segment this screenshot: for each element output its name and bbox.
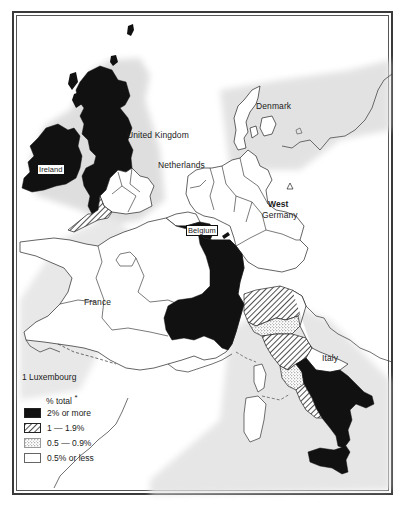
legend-item-2pct-or-more: 2% or more <box>24 407 91 419</box>
legend-title-text: % total <box>46 396 72 406</box>
label-france: France <box>84 297 111 307</box>
legend-item-1-to-1.9pct: 1 — 1.9% <box>24 422 84 434</box>
legend-title-asterisk: * <box>74 393 77 402</box>
swatch-white-icon <box>24 453 41 463</box>
label-west: West <box>268 199 289 209</box>
legend-item-0.5-to-0.9pct: 0.5 — 0.9% <box>24 437 91 449</box>
label-belgium: Belgium <box>186 225 218 236</box>
legend-item-0.5pct-or-less: 0.5% or less <box>24 452 94 464</box>
legend-title: % total * <box>46 393 78 406</box>
label-germany: Germany <box>262 210 298 220</box>
label-denmark: Denmark <box>256 101 291 111</box>
footnote-label: Luxembourg <box>29 372 76 382</box>
label-italy: Italy <box>322 353 338 363</box>
legend-item-label: 1 — 1.9% <box>47 423 84 433</box>
legend-item-label: 0.5% or less <box>47 453 94 463</box>
luxembourg-marker <box>222 232 230 239</box>
swatch-solid-black-icon <box>24 408 41 418</box>
swatch-hatch-icon <box>24 423 41 433</box>
label-netherlands: Netherlands <box>158 160 205 170</box>
legend-footnote: 1 Luxembourg <box>22 372 76 382</box>
label-united-kingdom: United Kingdom <box>127 130 189 140</box>
legend-item-label: 2% or more <box>47 408 91 418</box>
footnote-marker: 1 <box>22 372 27 382</box>
label-ireland: Ireland <box>37 164 65 175</box>
swatch-stipple-icon <box>24 438 41 448</box>
triangle-marker <box>287 183 293 189</box>
legend-item-label: 0.5 — 0.9% <box>47 438 91 448</box>
